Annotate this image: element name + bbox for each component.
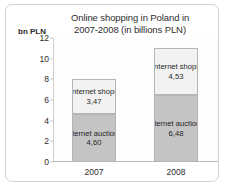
y-tick-mark — [50, 141, 53, 142]
y-tick-label: 10 — [40, 54, 49, 64]
y-tick-mark — [50, 79, 53, 80]
x-axis-label-2008: 2008 — [154, 167, 198, 177]
chart-frame: Online shopping in Poland in 2007-2008 (… — [5, 4, 219, 182]
y-axis-line — [53, 38, 54, 162]
chart-title-line-1: Online shopping in Poland in — [40, 12, 220, 24]
plot-area: 12 10 8 6 4 2 — [53, 38, 218, 162]
y-tick-label: 12 — [40, 33, 49, 43]
bar-group-2008[interactable]: Internet shops 4,53 Internet auctions 6,… — [154, 48, 198, 162]
bar-segment-auctions-2008[interactable]: Internet auctions 6,48 — [154, 95, 198, 162]
chart-title-line-2: 2007-2008 (in billions PLN) — [40, 24, 220, 36]
y-tick-label: 2 — [44, 136, 49, 146]
y-tick-label: 0 — [44, 157, 49, 167]
segment-series-name: Internet auctions — [72, 129, 116, 138]
segment-value-label: 4,53 — [169, 72, 184, 81]
y-tick-mark — [50, 120, 53, 121]
chart-title: Online shopping in Poland in 2007-2008 (… — [40, 12, 220, 36]
y-tick-mark — [50, 100, 53, 101]
bar-segment-auctions-2007[interactable]: Internet auctions 4,60 — [72, 114, 116, 162]
bar-group-2007[interactable]: Internet shops 3,47 Internet auctions 4,… — [72, 79, 116, 162]
y-tick-mark — [50, 38, 53, 39]
y-tick-label: 4 — [44, 116, 49, 126]
y-tick-mark — [50, 162, 53, 163]
y-tick-label: 6 — [44, 95, 49, 105]
segment-series-name: Internet shops — [154, 62, 198, 71]
y-tick-mark — [50, 58, 53, 59]
segment-value-label: 6,48 — [169, 129, 184, 138]
segment-series-name: Internet shops — [72, 87, 116, 96]
bar-segment-shops-2007[interactable]: Internet shops 3,47 — [72, 79, 116, 115]
bar-segment-shops-2008[interactable]: Internet shops 4,53 — [154, 48, 198, 95]
segment-series-name: Internet auctions — [154, 119, 198, 128]
segment-value-label: 3,47 — [87, 97, 102, 106]
y-tick-label: 8 — [44, 74, 49, 84]
x-axis-label-2007: 2007 — [72, 167, 116, 177]
segment-value-label: 4,60 — [87, 138, 102, 147]
